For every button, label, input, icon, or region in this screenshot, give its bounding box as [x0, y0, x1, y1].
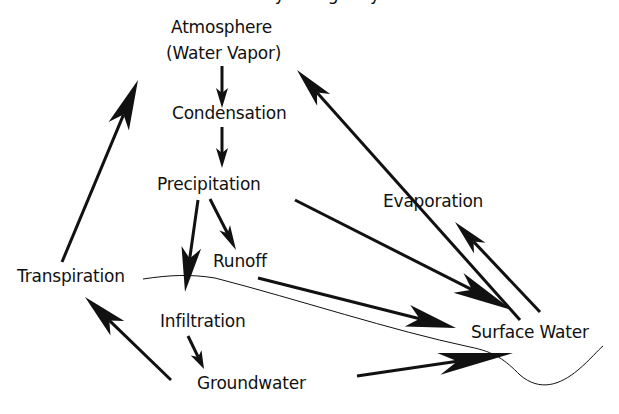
- label-water-vapor: (Water Vapor): [166, 43, 281, 63]
- label-transpiration: Transpiration: [17, 266, 125, 286]
- label-condensation: Condensation: [172, 103, 287, 123]
- label-infiltration: Infiltration: [160, 311, 245, 331]
- label-precipitation: Precipitation: [157, 174, 261, 194]
- hydrologic-cycle-diagram: [0, 0, 619, 414]
- label-runoff: Runoff: [213, 251, 267, 271]
- label-surface-water: Surface Water: [471, 322, 589, 342]
- label-evaporation: Evaporation: [383, 191, 483, 211]
- label-atmosphere: Atmosphere: [171, 17, 272, 37]
- diagram-title: Hydrologic Cycle: [262, 0, 405, 4]
- label-groundwater: Groundwater: [197, 373, 306, 393]
